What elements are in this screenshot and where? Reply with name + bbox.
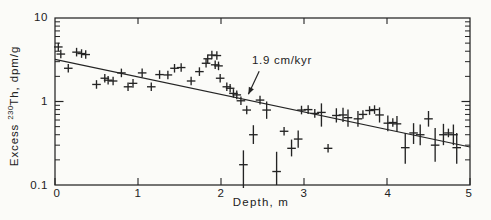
y-axis-title-superscript: 230: [6, 106, 15, 120]
y-axis-title-prefix: Excess: [8, 120, 20, 167]
excess-th230-vs-depth-chart: Excess 230Th, dpm/g 10 1 0.1 0 1 2 3 4 5…: [0, 0, 491, 220]
x-tick-label-2: 2: [218, 187, 225, 199]
x-axis-title: Depth, m: [233, 196, 289, 208]
y-tick-label-1: 1: [14, 95, 48, 107]
x-tick-label-4: 4: [385, 187, 392, 199]
x-tick-label-1: 1: [135, 187, 142, 199]
x-tick-label-3: 3: [301, 187, 308, 199]
slope-annotation: 1.9 cm/kyr: [252, 54, 312, 66]
y-tick-label-0-1: 0.1: [14, 179, 48, 191]
plot-canvas: [0, 0, 491, 220]
x-tick-label-0: 0: [54, 187, 61, 199]
x-tick-label-5: 5: [466, 187, 473, 199]
y-tick-label-10: 10: [14, 11, 48, 23]
annotation-arrowhead: [248, 87, 254, 95]
